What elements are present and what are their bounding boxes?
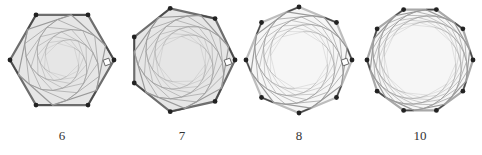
vertex-dot xyxy=(233,58,238,63)
vertex-dot xyxy=(86,103,91,108)
polygon-spiral-7 xyxy=(132,6,238,114)
vertex-dot xyxy=(334,20,339,25)
vertex-dot xyxy=(259,95,264,100)
vertex-dot xyxy=(244,58,249,63)
vertex-dot xyxy=(471,58,476,63)
vertex-dot xyxy=(168,6,173,11)
vertex-dot xyxy=(365,58,370,63)
vertex-dot xyxy=(401,7,406,12)
vertex-dot xyxy=(213,99,218,104)
vertex-dot xyxy=(132,35,137,40)
vertex-dot xyxy=(375,26,380,31)
figure-label-6: 6 xyxy=(59,128,66,144)
polygon-spiral-6 xyxy=(8,13,117,108)
vertex-dot xyxy=(434,7,439,12)
vertex-dot xyxy=(8,58,13,63)
vertex-dot xyxy=(112,58,117,63)
vertex-dot xyxy=(34,103,39,108)
vertex-dot xyxy=(460,26,465,31)
vertex-dot xyxy=(401,108,406,113)
vertex-dot xyxy=(350,58,355,63)
vertex-dot xyxy=(297,111,302,116)
polygon-spiral-diagram xyxy=(0,0,482,155)
vertex-dot xyxy=(132,81,137,86)
vertex-dot xyxy=(460,89,465,94)
vertex-dot xyxy=(334,95,339,100)
figure-label-8: 8 xyxy=(296,128,303,144)
figure-label-7: 7 xyxy=(179,128,186,144)
vertex-dot xyxy=(259,20,264,25)
vertex-dot xyxy=(375,89,380,94)
vertex-dot xyxy=(168,109,173,114)
polygon-spiral-10 xyxy=(365,7,476,113)
vertex-dot xyxy=(434,108,439,113)
figure-label-10: 10 xyxy=(414,128,427,144)
vertex-dot xyxy=(86,13,91,18)
vertex-dot xyxy=(297,5,302,10)
vertex-dot xyxy=(34,13,39,18)
polygon-spiral-8 xyxy=(244,5,355,116)
vertex-dot xyxy=(213,16,218,21)
